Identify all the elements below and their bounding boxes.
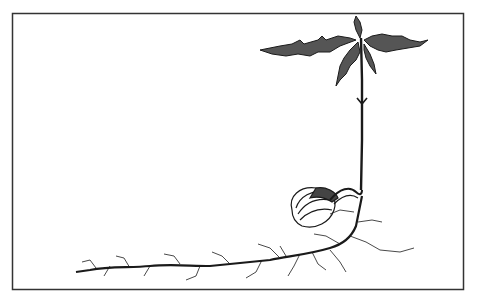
picture-frame — [13, 14, 464, 290]
leaves — [260, 16, 428, 86]
illustration — [0, 0, 478, 300]
roots — [76, 196, 414, 280]
stem — [357, 38, 367, 190]
acorn — [291, 188, 362, 227]
acorn-seedling-drawing — [0, 0, 478, 300]
